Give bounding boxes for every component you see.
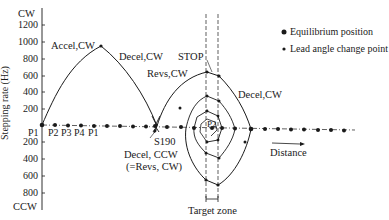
y-axis-top-label: CW bbox=[18, 9, 35, 20]
y-tick-600: 600 bbox=[8, 71, 38, 81]
target-zone-bracket bbox=[206, 196, 218, 202]
phase-label-p4: P4 bbox=[74, 128, 85, 138]
y-tick-1200: 1200 bbox=[8, 20, 38, 30]
p2-label: P2 bbox=[207, 120, 217, 129]
y-tick-400: 400 bbox=[8, 87, 38, 97]
y-tick-800: 800 bbox=[8, 54, 38, 64]
y-tick-ccw-400: 400 bbox=[8, 154, 38, 164]
stop-label: STOP bbox=[178, 52, 204, 63]
phase-label-p3: P3 bbox=[61, 128, 72, 138]
legend-small-dot bbox=[282, 47, 285, 50]
target-zone-label: Target zone bbox=[188, 206, 237, 217]
distance-arrow bbox=[272, 142, 305, 146]
legend-equilibrium-label: Equilibrium position bbox=[290, 27, 373, 37]
decel-ccw-label: Decel, CCW bbox=[124, 150, 178, 161]
stop-leader bbox=[207, 60, 212, 72]
s190-loop bbox=[152, 116, 160, 132]
y-tick-200: 200 bbox=[8, 104, 38, 114]
y-tick-ccw-200: 200 bbox=[8, 137, 38, 147]
y-axis-bottom-label: CCW bbox=[13, 202, 37, 213]
revs-cw-curve bbox=[157, 72, 207, 126]
equilibrium-dots bbox=[40, 123, 346, 133]
phase-label-p2: P2 bbox=[48, 128, 59, 138]
y-tick-ccw-600: 600 bbox=[8, 171, 38, 181]
legend-lead-angle-label: Lead angle change point bbox=[290, 44, 388, 54]
y-axis-title: Stepping rate (Hz) bbox=[0, 66, 10, 140]
decel-ccw-note: (=Revs, CW) bbox=[126, 162, 182, 173]
decel-cw-label-1: Decel,CW bbox=[119, 52, 163, 63]
accel-cw-curve bbox=[42, 46, 101, 125]
s190-label: S190 bbox=[154, 137, 176, 148]
revs-cw-label: Revs,CW bbox=[147, 69, 188, 80]
decel-cw-label-2: Decel,CW bbox=[238, 90, 282, 101]
legend-large-dot bbox=[282, 30, 287, 35]
phase-label-p1-repeat: P1 bbox=[88, 128, 99, 138]
accel-cw-label: Accel,CW bbox=[51, 41, 95, 52]
phase-label-p1: P1 bbox=[28, 128, 39, 138]
y-tick-ccw-800: 800 bbox=[8, 188, 38, 198]
distance-label: Distance bbox=[270, 148, 307, 159]
y-tick-1000: 1000 bbox=[8, 37, 38, 47]
